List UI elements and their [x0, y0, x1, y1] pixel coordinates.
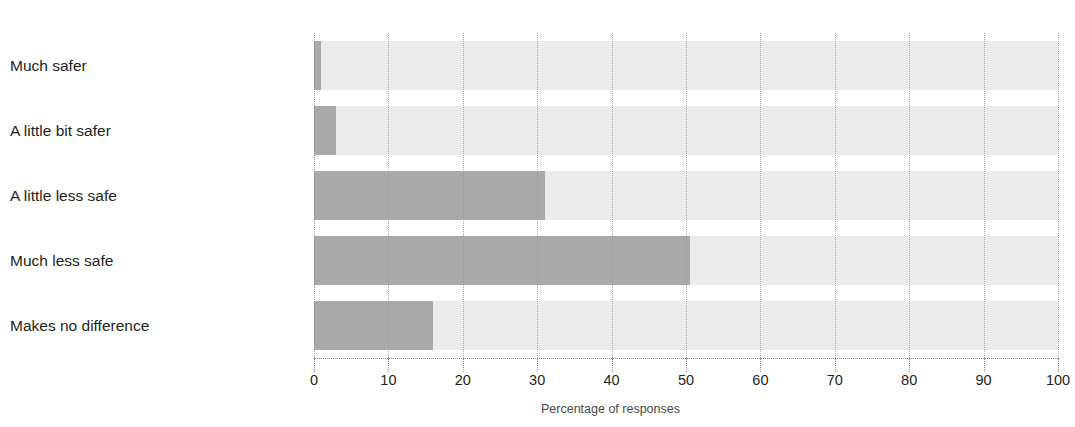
x-tick-label: 100 [1028, 372, 1075, 388]
x-tick-label: 40 [582, 372, 642, 388]
gridline [314, 33, 315, 358]
x-tick-mark [388, 358, 389, 372]
bar [314, 236, 690, 285]
x-tick-label: 60 [730, 372, 790, 388]
x-tick-mark [537, 358, 538, 372]
x-tick-label: 70 [805, 372, 865, 388]
x-tick-label: 0 [284, 372, 344, 388]
bar [314, 171, 545, 220]
bar [314, 106, 336, 155]
x-tick-label: 20 [433, 372, 493, 388]
category-label: Makes no difference [10, 293, 295, 358]
x-tick-label: 30 [507, 372, 567, 388]
gridline [760, 33, 761, 358]
category-label: A little less safe [10, 163, 295, 228]
x-tick-mark [314, 358, 315, 372]
x-tick-mark [612, 358, 613, 372]
x-tick-mark [463, 358, 464, 372]
x-tick-label: 90 [954, 372, 1014, 388]
x-axis-title-label: Percentage of responses [541, 402, 680, 416]
gridline [835, 33, 836, 358]
gridline [388, 33, 389, 358]
x-tick-mark [760, 358, 761, 372]
x-tick-mark [984, 358, 985, 372]
gridline [537, 33, 538, 358]
category-label: Much less safe [10, 228, 295, 293]
x-tick-label: 50 [656, 372, 716, 388]
gridline [909, 33, 910, 358]
category-axis: Much saferA little bit saferA little les… [0, 33, 300, 358]
category-label: A little bit safer [10, 98, 295, 163]
bar [314, 301, 433, 350]
plot-area [314, 33, 1058, 358]
gridline [463, 33, 464, 358]
gridline [1058, 33, 1059, 358]
x-tick-mark [909, 358, 910, 372]
x-tick-mark [686, 358, 687, 372]
x-tick-mark [1058, 358, 1059, 372]
bar [314, 41, 321, 90]
x-tick-label: 80 [879, 372, 939, 388]
gridline [612, 33, 613, 358]
chart-title [8, 0, 1048, 6]
category-label: Much safer [10, 33, 295, 98]
gridline [984, 33, 985, 358]
x-axis-title: Percentage of responses [0, 402, 1063, 416]
x-tick-label: 10 [358, 372, 418, 388]
x-tick-mark [835, 358, 836, 372]
gridline [686, 33, 687, 358]
